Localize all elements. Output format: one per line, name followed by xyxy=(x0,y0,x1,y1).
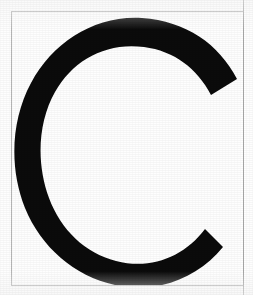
frame-rule-top xyxy=(11,11,243,12)
frame-rule-left xyxy=(11,11,12,286)
frame-rule-bottom xyxy=(11,285,243,286)
frame-rule-right xyxy=(243,0,244,295)
screenshot-root xyxy=(0,0,253,295)
letter-c-icon xyxy=(11,11,243,285)
letter-specimen xyxy=(11,11,243,285)
